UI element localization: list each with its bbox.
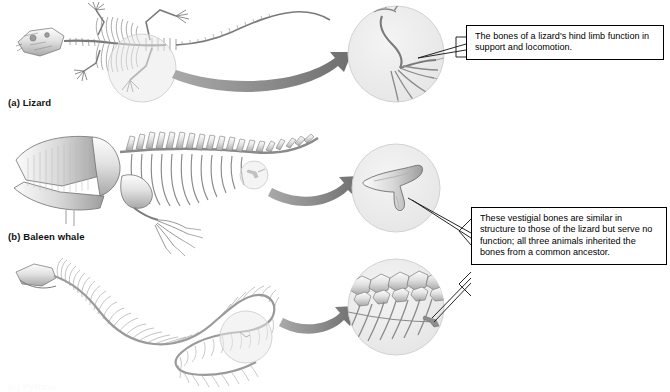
callout-lizard-function: The bones of a lizard's hind limb functi… xyxy=(466,25,664,60)
whale-cranium xyxy=(92,137,120,196)
specimen-label-lizard: (a) Lizard xyxy=(8,97,51,108)
figure-canvas: (a) Lizard (b) Baleen whale (c) Python T… xyxy=(0,0,670,392)
whale-highlight-circle xyxy=(240,161,268,189)
whale-scapula xyxy=(121,175,153,209)
lizard-highlight-circle xyxy=(108,34,176,102)
lizard-skull xyxy=(16,28,64,56)
specimen-label-snake: (c) Python xyxy=(8,381,55,392)
arrow-lizard-to-inset xyxy=(172,52,352,92)
arrow-whale-to-inset xyxy=(268,176,360,206)
whale-skull xyxy=(16,136,104,186)
callout-lizard-notch xyxy=(456,37,466,57)
snake-skeleton xyxy=(16,258,279,387)
magnifier-arrows xyxy=(172,52,360,334)
callout-vestigial-explanation: These vestigial bones are similar in str… xyxy=(471,207,667,265)
whale-pelvic-bone-inset xyxy=(352,144,440,232)
snake-highlight-circle xyxy=(220,311,272,363)
lizard-tail-vertebrae xyxy=(182,14,270,45)
arrow-snake-to-inset xyxy=(279,306,356,334)
snake-pelvic-spur-inset xyxy=(344,259,447,355)
whale-flipper-digits xyxy=(155,220,203,256)
snake-skull xyxy=(16,264,56,286)
whale-mandible xyxy=(14,182,104,210)
specimen-label-baleen-whale: (b) Baleen whale xyxy=(8,231,85,242)
